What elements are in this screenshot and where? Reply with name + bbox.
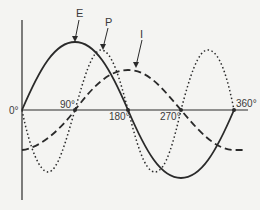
arrowhead-i-icon <box>133 62 139 68</box>
tick-label-90: 90° <box>60 99 75 110</box>
tick-label-180: 180° <box>109 111 130 122</box>
arrowhead-e-icon <box>72 36 78 42</box>
label-e: E <box>76 7 83 19</box>
tick-label-360: 360° <box>236 98 257 109</box>
label-i: I <box>140 28 143 40</box>
arrowhead-p-icon <box>100 44 106 50</box>
tick-label-270: 270° <box>160 111 181 122</box>
waveform-diagram: E P I 0° 90° 180° 270° 360° <box>0 0 260 210</box>
tick-label-0: 0° <box>9 105 19 116</box>
label-p: P <box>105 16 112 28</box>
